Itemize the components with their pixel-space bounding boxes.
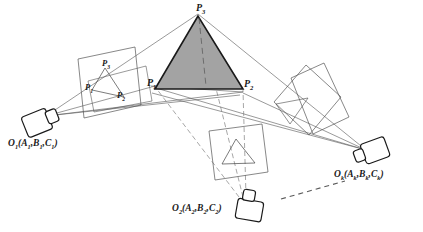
object-target bbox=[151, 16, 243, 92]
label-image-point-P3-left-plane: P3 bbox=[102, 59, 110, 68]
camera-bottom-station bbox=[235, 188, 266, 222]
label-image-point-P2-left-plane: P2 bbox=[117, 91, 125, 100]
continuation-dashes bbox=[281, 181, 345, 199]
ray-O1-to-P2 bbox=[46, 92, 243, 116]
projected-triangle-bottom bbox=[222, 139, 255, 164]
continuation-dashed-line bbox=[281, 181, 345, 199]
ray-O2-to-P1 bbox=[156, 88, 239, 197]
image-plane-bottom-frame bbox=[209, 124, 268, 180]
camera-bottom-body bbox=[235, 198, 264, 222]
image-plane-right-a-frame bbox=[274, 65, 341, 135]
ray-Ok-to-P2 bbox=[243, 93, 366, 150]
photogrammetry-diagram: P3 P1 P2 P3 P1 P2 O1(A1,B1,C1) O2(A2,B2,… bbox=[0, 0, 423, 232]
label-object-point-P1: P1 bbox=[147, 78, 156, 88]
target-triangle bbox=[155, 16, 243, 89]
ray-O2-to-P2 bbox=[243, 90, 246, 196]
ray-O1-to-P2-b bbox=[46, 95, 240, 116]
diagram-canvas bbox=[0, 0, 423, 232]
image-plane-right-b-frame bbox=[291, 63, 349, 134]
projected-triangle-right-shape bbox=[276, 98, 308, 124]
image-plane-bottom bbox=[209, 124, 268, 180]
image-plane-right-b bbox=[291, 63, 349, 134]
ray-Ok-to-P1 bbox=[156, 88, 366, 150]
label-image-point-P1-left-plane: P1 bbox=[85, 83, 93, 92]
label-camera-station-O2: O2(A2,B2,C2) bbox=[172, 204, 222, 214]
label-camera-station-Ok: Ok(Ak,Bk,Ck) bbox=[334, 170, 384, 180]
label-object-point-P3: P3 bbox=[196, 3, 205, 13]
projected-triangle-right bbox=[276, 98, 308, 124]
ray-Ok-to-P1-b bbox=[152, 93, 366, 150]
camera-left-station bbox=[21, 105, 62, 139]
image-plane-right-a bbox=[274, 65, 341, 135]
camera-bottom-lens bbox=[242, 189, 256, 202]
camera-right-station bbox=[351, 136, 390, 167]
label-object-point-P2: P2 bbox=[244, 79, 253, 89]
label-camera-station-O1: O1(A1,B1,C1) bbox=[8, 139, 58, 149]
